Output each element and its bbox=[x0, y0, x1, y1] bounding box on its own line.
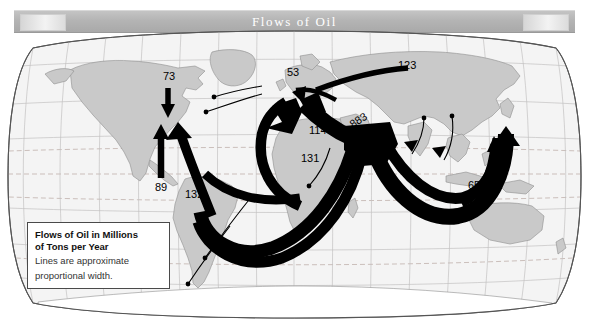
flow-label-123: 123 bbox=[398, 59, 416, 71]
world-map: 73 89 132 53 123 114 131 883 65 Flows of… bbox=[0, 26, 589, 335]
flow-label-53: 53 bbox=[287, 66, 299, 78]
legend-sub-line1: Lines are approximate bbox=[35, 255, 162, 267]
flow-label-73: 73 bbox=[163, 70, 175, 82]
origin-dot bbox=[212, 95, 217, 100]
legend-title-line1: Flows of Oil in Millions bbox=[35, 229, 162, 241]
origin-dot bbox=[204, 110, 209, 115]
oil-flows-map-page: Flows of Oil bbox=[0, 0, 589, 335]
legend-sub-line2: proportional width. bbox=[35, 270, 162, 282]
flow-label-65: 65 bbox=[468, 179, 480, 191]
origin-dot bbox=[450, 114, 455, 119]
origin-dot bbox=[186, 282, 191, 287]
legend-title-line2: of Tons per Year bbox=[35, 241, 162, 253]
flow-label-114: 114 bbox=[309, 124, 327, 136]
origin-dot bbox=[422, 116, 427, 121]
origin-dot bbox=[307, 184, 312, 189]
flow-label-89: 89 bbox=[155, 181, 167, 193]
flow-label-131: 131 bbox=[301, 152, 319, 164]
flow-label-132: 132 bbox=[185, 188, 203, 200]
origin-dot bbox=[203, 256, 208, 261]
map-legend: Flows of Oil in Millions of Tons per Yea… bbox=[27, 222, 170, 289]
